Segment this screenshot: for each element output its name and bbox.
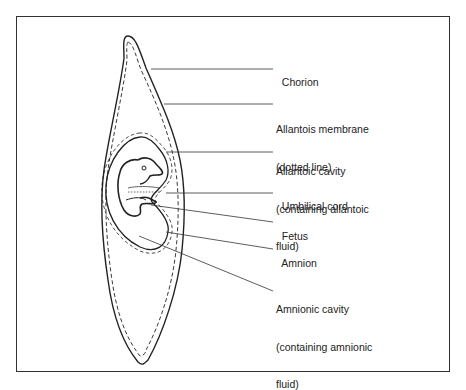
label-umbilical-cord: Umbilical cord [276, 187, 348, 212]
label-fetus: Fetus [276, 217, 308, 242]
amnion-dashed-outline [102, 133, 172, 253]
label-amnion: Amnion [276, 244, 317, 269]
label-chorion: Chorion [276, 63, 319, 88]
leader-lines [139, 69, 273, 291]
fetus-illustration [118, 158, 163, 216]
fetal-membranes-illustration [0, 0, 466, 390]
label-amnionic-cavity: Amnionic cavity (containing amnionic flu… [276, 278, 372, 390]
chorion-outline [102, 36, 184, 364]
allantois-membrane-outline [106, 42, 178, 356]
amnion-outline [106, 137, 168, 250]
